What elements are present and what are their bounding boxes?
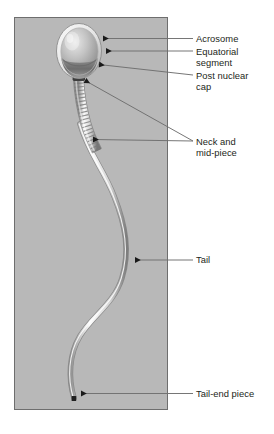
label-acrosome: Acrosome <box>196 33 238 44</box>
label-post-nuclear-cap: Post nuclear cap <box>196 70 248 93</box>
diagram-panel <box>15 18 168 410</box>
label-equatorial-segment: Equatorial segment <box>196 46 238 69</box>
label-neck-and-mid-piece: Neck and mid-piece <box>196 136 237 159</box>
label-tail: Tail <box>196 254 210 265</box>
figure-caption <box>3 424 271 434</box>
sperm-head <box>57 24 102 79</box>
label-tail-end-piece: Tail-end piece <box>196 388 254 399</box>
tail-end-tip <box>72 396 77 401</box>
sperm-anatomy-figure: Acrosome Equatorial segment Post nuclear… <box>0 0 274 434</box>
